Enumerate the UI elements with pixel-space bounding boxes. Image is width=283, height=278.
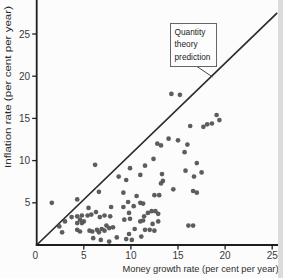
data-point <box>97 189 102 194</box>
y-tick-label: 25 <box>19 29 31 40</box>
data-point <box>127 211 132 216</box>
annotation-line-3: prediction <box>175 52 211 62</box>
data-point <box>86 206 91 211</box>
y-axis-ticks: 510152025 <box>19 29 37 209</box>
data-point <box>171 187 176 192</box>
data-point <box>63 219 68 224</box>
data-points <box>49 92 221 244</box>
data-point <box>128 216 133 221</box>
data-point <box>185 142 190 147</box>
data-point <box>143 227 148 232</box>
data-point <box>107 239 112 244</box>
data-point <box>152 193 157 198</box>
data-point <box>182 150 187 155</box>
page-edge-shadow <box>278 0 283 278</box>
data-point <box>49 200 54 205</box>
data-point <box>141 201 146 206</box>
annotation-line-1: Quantity <box>175 27 207 37</box>
callout-leader-line <box>197 67 213 78</box>
data-point <box>157 193 162 198</box>
data-point <box>194 161 199 166</box>
data-point <box>57 224 62 229</box>
data-point <box>169 92 174 97</box>
data-point <box>78 229 83 234</box>
data-point <box>98 238 103 243</box>
data-point <box>192 174 197 179</box>
data-point <box>183 168 188 173</box>
data-point <box>102 213 107 218</box>
data-point <box>97 215 102 220</box>
data-point <box>91 236 96 241</box>
data-point <box>159 143 164 148</box>
data-point <box>124 237 129 242</box>
data-point <box>132 227 137 232</box>
data-point <box>176 138 181 143</box>
data-point <box>188 124 193 129</box>
x-axis-ticks: 0510152025 <box>32 245 278 261</box>
data-point <box>186 223 191 228</box>
data-point <box>122 217 127 222</box>
data-point <box>205 122 210 127</box>
data-point <box>217 118 222 123</box>
data-point <box>124 178 129 183</box>
data-point <box>156 211 161 216</box>
data-point <box>210 121 215 126</box>
data-point <box>60 230 65 235</box>
data-point <box>127 232 132 237</box>
data-point <box>150 222 155 227</box>
data-point <box>156 219 161 224</box>
data-point <box>159 181 164 186</box>
data-point <box>138 173 143 178</box>
data-point <box>69 215 74 220</box>
data-point <box>166 136 171 141</box>
annotation-callout: Quantity theory prediction <box>171 24 217 78</box>
data-point <box>160 172 165 177</box>
y-tick-label: 15 <box>19 113 31 124</box>
data-point <box>81 219 86 224</box>
annotation-line-2: theory <box>175 39 199 49</box>
data-point <box>142 214 147 219</box>
data-point <box>134 194 139 199</box>
x-tick-label: 5 <box>81 250 87 261</box>
x-tick-label: 25 <box>267 250 279 261</box>
data-point <box>80 213 85 218</box>
data-point <box>93 162 98 167</box>
data-point <box>199 170 204 175</box>
y-axis-label: Inflation rate (per cent per year) <box>3 6 13 168</box>
y-tick-label: 20 <box>19 71 31 82</box>
data-point <box>108 214 113 219</box>
data-point <box>94 210 99 215</box>
x-tick-label: 15 <box>172 250 184 261</box>
data-point <box>90 229 95 234</box>
x-tick-label: 0 <box>32 250 38 261</box>
data-point <box>75 197 80 202</box>
data-point <box>114 235 119 240</box>
data-point <box>102 228 107 233</box>
data-point <box>121 190 126 195</box>
data-point <box>121 205 126 210</box>
data-point <box>141 218 146 223</box>
x-axis-label: Money growth rate (per cent per year) <box>123 264 279 274</box>
data-point <box>116 174 121 179</box>
y-tick-label: 10 <box>19 155 31 166</box>
y-tick-label: 5 <box>25 197 31 208</box>
axes <box>36 0 279 246</box>
figure-canvas: 0510152025 510152025 Quantity theory pre… <box>0 0 283 278</box>
scatter-chart: 0510152025 510152025 Quantity theory pre… <box>0 0 283 278</box>
data-point <box>109 205 114 210</box>
data-point <box>75 221 80 226</box>
data-point <box>151 157 156 162</box>
data-point <box>139 234 144 239</box>
data-point <box>143 163 148 168</box>
data-point <box>126 200 131 205</box>
data-point <box>152 228 157 233</box>
data-point <box>128 166 133 171</box>
data-point <box>191 223 196 228</box>
data-point <box>129 238 134 243</box>
data-point <box>178 92 183 97</box>
data-point <box>89 212 94 217</box>
data-point <box>194 190 199 195</box>
data-point <box>147 227 152 232</box>
data-point <box>131 204 136 209</box>
x-tick-label: 10 <box>125 250 137 261</box>
